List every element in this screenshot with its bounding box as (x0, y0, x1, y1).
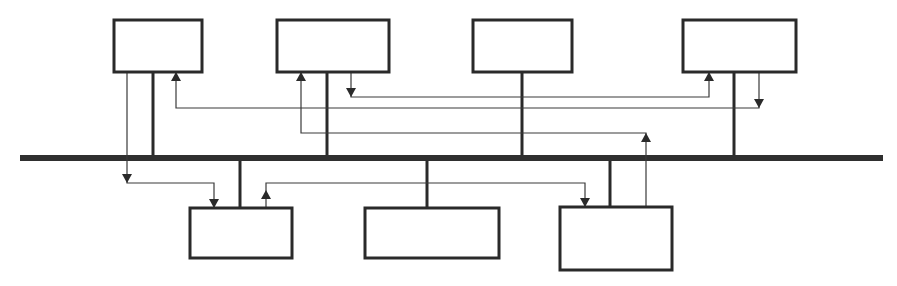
node-top-2-box (277, 20, 389, 72)
signal-top1-to-bottom1 (122, 72, 219, 208)
signal-line (351, 72, 709, 97)
node-top-3-box (473, 20, 572, 72)
arrowhead-up-icon (641, 133, 651, 142)
signal-paths (122, 72, 764, 208)
node-top-4-box (683, 20, 796, 72)
node-bottom-2-box (365, 208, 499, 258)
signal-line (176, 72, 759, 108)
arrowhead-up-icon (261, 190, 271, 199)
arrowhead-down-icon (754, 99, 764, 108)
arrowhead-down-icon (346, 88, 356, 97)
node-bottom-3-box (560, 207, 672, 270)
node-bottom-1-box (190, 208, 292, 258)
signal-line (127, 72, 214, 208)
nodes (114, 20, 796, 270)
arrowhead-down-icon (122, 174, 132, 183)
bus-topology-diagram (0, 0, 897, 286)
signal-top4-to-top1 (171, 72, 764, 108)
node-top-1-box (114, 20, 202, 72)
signal-top2-to-top4 (346, 72, 714, 97)
